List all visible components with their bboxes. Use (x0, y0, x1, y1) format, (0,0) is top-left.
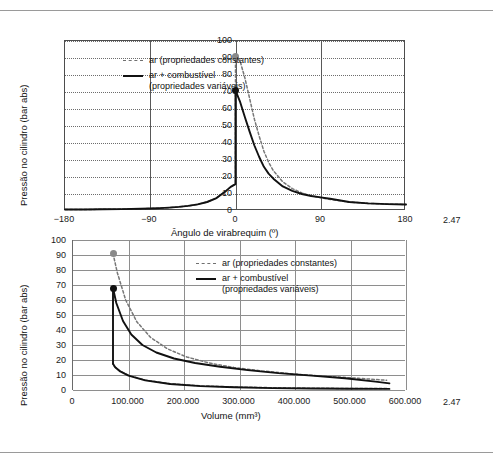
chart2-x-axis-title: Volume (mm³) (201, 410, 261, 421)
chart2-ytick-30: 30 (34, 341, 66, 350)
solid-line-icon (123, 75, 143, 77)
chart1-series-solid (65, 90, 406, 209)
chart2-ytick-80: 80 (34, 266, 66, 275)
chart1-ytick-90: 90 (202, 53, 232, 62)
chart1-xtick-90: 90 (300, 215, 340, 224)
chart1-plot-area: ar (propriedades constantes) ar + combus… (64, 40, 405, 210)
chart2-series-solid-compression (113, 364, 389, 389)
chart1-ytick-10: 10 (202, 189, 232, 198)
chart2-gridline-y-0 (73, 390, 405, 391)
chart1-xtick-180: 180 (385, 215, 425, 224)
solid-line-icon (196, 278, 216, 280)
chart-volume-pressure: Pressão no cilindro (bar abs) (0, 232, 493, 450)
chart1-xtick-minus180: −180 (44, 215, 84, 224)
chart1-ytick-50: 50 (202, 121, 232, 130)
chart2-series-dashed-compression (113, 365, 387, 389)
chart1-side-number: 2.47 (443, 215, 461, 225)
chart2-ytick-50: 50 (34, 311, 66, 320)
chart1-ytick-0: 0 (202, 206, 232, 215)
chart2-ytick-100: 100 (34, 236, 66, 245)
chart1-ytick-80: 80 (202, 70, 232, 79)
chart1-ytick-20: 20 (202, 172, 232, 181)
chart2-xtick-500000: 500.000 (330, 397, 370, 406)
chart2-ytick-90: 90 (34, 251, 66, 260)
chart2-gridline-x-600000 (406, 240, 407, 390)
chart1-ytick-60: 60 (202, 104, 232, 113)
chart2-y-axis-title: Pressão no cilindro (bar abs) (18, 285, 29, 406)
top-divider-rule (0, 10, 493, 11)
chart2-xtick-600000: 600.000 (385, 397, 425, 406)
chart2-xtick-100000: 100.000 (108, 397, 148, 406)
chart1-ytick-70: 70 (202, 87, 232, 96)
chart1-xtick-minus90: −90 (129, 215, 169, 224)
chart2-ytick-0: 0 (34, 386, 66, 395)
chart2-xtick-300000: 300.000 (219, 397, 259, 406)
chart2-legend-label-solid: ar + combustível (222, 273, 288, 283)
chart1-y-axis-title: Pressão no cilindro (bar abs) (18, 85, 29, 206)
chart-crank-angle-pressure: Pressão no cilindro (bar abs) (0, 14, 493, 226)
chart1-ytick-30: 30 (202, 155, 232, 164)
chart2-series-solid-expansion (113, 288, 389, 383)
chart2-ytick-20: 20 (34, 356, 66, 365)
chart2-ytick-60: 60 (34, 296, 66, 305)
chart2-legend-label-dashed: ar (propriedades constantes) (222, 258, 337, 268)
chart2-ytick-40: 40 (34, 326, 66, 335)
chart2-xtick-0: 0 (52, 397, 92, 406)
chart2-ytick-70: 70 (34, 281, 66, 290)
chart1-ytick-100: 100 (202, 36, 232, 45)
chart2-marker-dashed-peak (110, 250, 117, 257)
chart2-xtick-400000: 400.000 (274, 397, 314, 406)
dashed-line-icon (123, 60, 143, 61)
chart1-ytick-40: 40 (202, 138, 232, 147)
chart2-plot-area: ar (propriedades constantes) ar + combus… (72, 240, 405, 390)
dashed-line-icon (196, 263, 216, 264)
chart1-curves (65, 41, 406, 211)
chart2-ytick-10: 10 (34, 371, 66, 380)
chart2-legend-label-solid-cont: (propriedades variáveis) (222, 284, 319, 294)
chart2-xtick-200000: 200.000 (163, 397, 203, 406)
chart2-marker-solid-peak (110, 285, 117, 292)
chart1-xtick-0: 0 (215, 215, 255, 224)
chart2-side-number: 2.47 (443, 397, 461, 407)
bottom-divider-rule (0, 452, 493, 453)
